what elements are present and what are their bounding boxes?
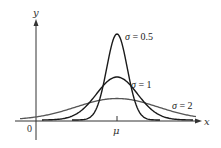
legend-sigma-2: σ = 2 [172, 100, 193, 111]
legend-sigma-0-5: σ = 0.5 [125, 31, 153, 42]
x-axis-label: x [204, 116, 210, 127]
sigma-value: = 0.5 [130, 31, 153, 42]
x-axis-arrow-icon [195, 119, 202, 124]
curve-sigma-2 [20, 99, 196, 119]
chart-canvas: y x 0 μ σ = 0.5 σ = 1 σ = 2 [0, 0, 221, 148]
curves [20, 34, 196, 120]
origin-label: 0 [27, 123, 32, 134]
sigma-value: = 2 [177, 100, 193, 111]
y-axis-arrow-icon [34, 19, 39, 26]
mu-label: μ [113, 125, 120, 136]
legend-sigma-1: σ = 1 [131, 79, 152, 90]
sigma-value: = 1 [136, 79, 152, 90]
y-axis-label: y [32, 7, 39, 18]
axes [15, 19, 202, 140]
normal-distribution-chart: y x 0 μ σ = 0.5 σ = 1 σ = 2 [0, 0, 221, 148]
